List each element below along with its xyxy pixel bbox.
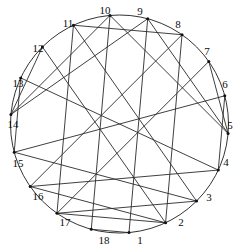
chord-edge-12-2 xyxy=(42,47,165,223)
vertex-dot-1 xyxy=(128,231,131,234)
vertex-label-15: 15 xyxy=(13,158,24,169)
chord-edge-10-14 xyxy=(11,15,110,114)
chord-edge-6-15 xyxy=(14,96,225,152)
vertex-label-16: 16 xyxy=(33,191,44,202)
vertex-dot-14 xyxy=(9,113,12,116)
chord-edge-16-2 xyxy=(30,187,165,223)
vertex-dot-5 xyxy=(227,132,230,135)
vertex-dot-18 xyxy=(90,228,93,231)
chord-diagram-svg xyxy=(0,0,239,250)
vertex-label-7: 7 xyxy=(204,46,210,57)
chord-edge-11-17 xyxy=(57,25,73,213)
chord-edge-9-5 xyxy=(148,19,228,134)
chord-edge-11-3 xyxy=(73,25,196,201)
vertex-label-12: 12 xyxy=(33,43,44,54)
vertex-label-3: 3 xyxy=(206,192,212,203)
vertex-dot-7 xyxy=(207,60,210,63)
vertex-label-18: 18 xyxy=(99,235,110,246)
vertex-dot-4 xyxy=(217,169,220,172)
vertex-dot-17 xyxy=(55,212,58,215)
vertex-dot-16 xyxy=(29,185,32,188)
vertex-dot-9 xyxy=(146,17,149,20)
vertex-dot-6 xyxy=(223,94,226,97)
vertex-dot-8 xyxy=(181,33,184,36)
chord-edge-13-15 xyxy=(14,78,20,152)
vertex-label-1: 1 xyxy=(137,235,143,246)
vertex-label-14: 14 xyxy=(8,119,19,130)
vertex-dot-3 xyxy=(195,200,198,203)
vertex-label-2: 2 xyxy=(178,217,184,228)
vertex-dot-2 xyxy=(164,221,167,224)
vertex-label-11: 11 xyxy=(63,18,74,29)
vertex-label-10: 10 xyxy=(100,5,111,16)
vertex-label-4: 4 xyxy=(223,157,229,168)
vertex-label-9: 9 xyxy=(137,6,143,17)
chord-edge-4-16 xyxy=(30,170,218,186)
vertex-label-8: 8 xyxy=(175,19,181,30)
vertex-label-5: 5 xyxy=(227,120,233,131)
vertex-label-17: 17 xyxy=(60,217,71,228)
chord-diagram-figure: 123456789101112131415161718 xyxy=(0,0,239,250)
vertex-label-13: 13 xyxy=(13,78,24,89)
vertex-label-6: 6 xyxy=(222,79,228,90)
vertex-dot-15 xyxy=(13,151,16,154)
chord-edge-3-17 xyxy=(57,201,197,213)
